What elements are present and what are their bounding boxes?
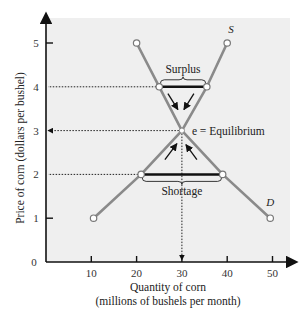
x-axis-title: Quantity of corn [130, 281, 206, 294]
curve-point [224, 40, 230, 46]
y-tick-label: 4 [33, 81, 39, 93]
curve-point [219, 171, 225, 177]
shortage-label: Shortage [161, 185, 202, 198]
y-tick-label: 5 [33, 37, 39, 49]
y-axis-title: Price of corn (dollars per bushel) [14, 72, 27, 224]
y-tick-label: 3 [33, 125, 39, 137]
x-tick-label: 30 [176, 267, 188, 279]
demand-curve-label: D [265, 196, 274, 208]
x-tick-label: 20 [131, 267, 143, 279]
equilibrium-label: e = Equilibrium [192, 125, 265, 138]
curve-point [90, 215, 96, 221]
surplus-label: Surplus [165, 63, 201, 76]
x-tick-label: 40 [222, 267, 234, 279]
x-axis-subtitle: (millions of bushels per month) [95, 295, 240, 308]
curve-point [267, 215, 273, 221]
x-tick-label: 50 [267, 267, 279, 279]
y-tick-label: 2 [33, 168, 39, 180]
plot-panel [46, 18, 290, 262]
equilibrium-point [179, 128, 184, 133]
curve-point [204, 84, 210, 90]
x-tick-label: 10 [86, 267, 98, 279]
supply-curve-label: S [228, 23, 234, 35]
supply-demand-chart: 1020304050012345 Surplus Shortage e = Eq… [0, 0, 307, 320]
curve-point [133, 40, 139, 46]
y-tick-label: 1 [33, 212, 39, 224]
curve-point [156, 84, 162, 90]
y-tick-label: 0 [31, 256, 37, 268]
curve-point [138, 171, 144, 177]
